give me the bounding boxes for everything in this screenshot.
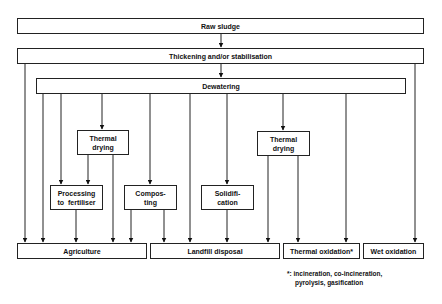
node-composting: Compos- ting xyxy=(124,185,177,210)
node-label-line1: Thermal xyxy=(89,134,116,143)
node-label: Wet oxidation xyxy=(371,247,417,256)
node-dewatering: Dewatering xyxy=(36,78,406,94)
node-label-line2: drying xyxy=(273,144,294,153)
node-label: Landfill disposal xyxy=(187,247,242,256)
node-label: Dewatering xyxy=(202,82,240,91)
node-label-line2: ting xyxy=(144,198,157,207)
node-wet-oxidation: Wet oxidation xyxy=(363,243,424,259)
node-landfill-disposal: Landfill disposal xyxy=(150,243,280,259)
node-label: Thermal oxidation* xyxy=(290,247,353,256)
node-processing-to-fertiliser: Processing to fertiliser xyxy=(50,185,103,210)
node-thermal-oxidation: Thermal oxidation* xyxy=(283,243,360,259)
node-thickening-stabilisation: Thickening and/or stabilisation xyxy=(17,48,424,64)
node-raw-sludge: Raw sludge xyxy=(17,18,424,34)
node-label: Agriculture xyxy=(63,247,100,256)
node-label-line2: to fertiliser xyxy=(57,198,95,207)
node-label: Thickening and/or stabilisation xyxy=(169,52,272,61)
node-label-line2: cation xyxy=(217,198,238,207)
footnote-line2: pyrolysis, gasification xyxy=(287,278,382,287)
node-label: Raw sludge xyxy=(201,22,240,31)
node-agriculture: Agriculture xyxy=(17,243,147,259)
footnote: *: incineration, co-incineration, pyroly… xyxy=(287,269,382,287)
node-thermal-drying-2: Thermal drying xyxy=(257,131,310,156)
node-label-line1: Thermal xyxy=(270,135,297,144)
node-solidification: Solidifi- cation xyxy=(201,185,254,210)
node-label-line1: Solidifi- xyxy=(215,189,241,198)
node-label-line1: Compos- xyxy=(135,189,165,198)
node-label-line2: drying xyxy=(92,143,113,152)
node-thermal-drying-1: Thermal drying xyxy=(77,130,129,155)
footnote-line1: *: incineration, co-incineration, xyxy=(287,269,382,278)
node-label-line1: Processing xyxy=(58,189,96,198)
